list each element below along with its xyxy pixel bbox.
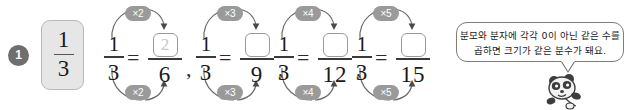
answer-box-numerator[interactable] bbox=[401, 33, 426, 57]
left-fraction: 1 3 bbox=[104, 33, 124, 86]
sample-fraction: 1 3 bbox=[42, 27, 85, 82]
left-denominator: 3 bbox=[104, 60, 124, 86]
equals-sign: = bbox=[375, 45, 387, 71]
sample-denominator: 3 bbox=[42, 56, 85, 82]
left-fraction-bar bbox=[274, 56, 294, 58]
left-numerator: 1 bbox=[196, 33, 216, 55]
equation-group-4: ×5 ×5 1 3 = 15 bbox=[346, 0, 438, 110]
sample-fraction-card: 1 3 bbox=[41, 20, 84, 90]
equals-sign: = bbox=[219, 45, 231, 71]
multiplier-top: ×3 bbox=[217, 6, 243, 21]
panda-mascot-icon bbox=[543, 72, 589, 110]
hint-line-1: 분모와 분자에 각각 0이 아닌 같은 수를 bbox=[457, 28, 623, 43]
right-fraction-bar bbox=[148, 58, 182, 60]
answer-box-numerator[interactable] bbox=[245, 33, 270, 57]
equation-group-1: ×2 ×2 1 3 = 2 6 , bbox=[98, 0, 190, 110]
multiplier-top: ×4 bbox=[295, 6, 321, 21]
hint-line-2: 곱하면 크기가 같은 분수가 돼요. bbox=[457, 43, 623, 58]
left-denominator: 3 bbox=[274, 60, 294, 86]
answer-box-numerator[interactable] bbox=[323, 33, 348, 57]
multiplier-bottom: ×5 bbox=[373, 85, 399, 100]
equals-sign: = bbox=[297, 45, 309, 71]
sample-fraction-bar bbox=[54, 54, 74, 55]
multiplier-top: ×5 bbox=[373, 6, 399, 21]
answer-box-numerator[interactable]: 2 bbox=[153, 33, 178, 57]
left-fraction: 1 3 bbox=[196, 33, 216, 86]
worksheet-exercise: 1 1 3 ×2 ×2 1 3 = 2 6 , bbox=[0, 0, 629, 110]
multiplier-top: ×2 bbox=[125, 6, 151, 21]
left-numerator: 1 bbox=[104, 33, 124, 55]
left-fraction-bar bbox=[352, 56, 372, 58]
hint-speech-bubble: 분모와 분자에 각각 0이 아닌 같은 수를 곱하면 크기가 같은 분수가 돼요… bbox=[456, 22, 624, 62]
left-fraction: 1 3 bbox=[352, 33, 372, 86]
left-numerator: 1 bbox=[274, 33, 294, 55]
equals-sign: = bbox=[127, 45, 139, 71]
left-fraction: 1 3 bbox=[274, 33, 294, 86]
right-denominator: 15 bbox=[396, 62, 430, 88]
right-denominator: 6 bbox=[148, 62, 182, 88]
right-fraction: 15 bbox=[396, 33, 430, 88]
multiplier-bottom: ×3 bbox=[217, 85, 243, 100]
right-fraction: 2 6 bbox=[148, 33, 182, 88]
problem-number-badge: 1 bbox=[8, 45, 29, 66]
right-fraction-bar bbox=[396, 58, 430, 60]
multiplier-bottom: ×4 bbox=[295, 85, 321, 100]
multiplier-bottom: ×2 bbox=[125, 85, 151, 100]
left-fraction-bar bbox=[196, 56, 216, 58]
left-fraction-bar bbox=[104, 56, 124, 58]
left-denominator: 3 bbox=[196, 60, 216, 86]
sample-numerator: 1 bbox=[42, 27, 85, 53]
left-numerator: 1 bbox=[352, 33, 372, 55]
left-denominator: 3 bbox=[352, 60, 372, 86]
